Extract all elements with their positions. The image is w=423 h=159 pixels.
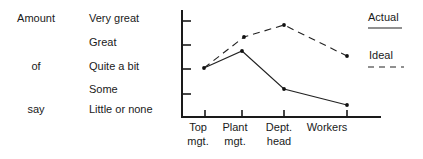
line-chart: [0, 0, 423, 159]
x-label-plant-1: Plant: [222, 121, 247, 134]
series-actual: [204, 51, 347, 105]
ideal-markers: [242, 23, 349, 58]
x-label-top-2: mgt.: [187, 135, 208, 148]
x-label-workers: Workers: [307, 121, 348, 134]
x-label-plant-2: mgt.: [224, 135, 245, 148]
series-ideal: [204, 25, 347, 68]
x-label-dept-2: head: [267, 135, 291, 148]
actual-markers: [202, 49, 349, 107]
x-label-dept-1: Dept.: [266, 121, 292, 134]
legend-actual-label: Actual: [368, 11, 399, 24]
x-label-top-1: Top: [189, 121, 207, 134]
legend-ideal-label: Ideal: [369, 49, 393, 62]
x-ticks: [205, 110, 347, 117]
y-ticks: [182, 21, 191, 94]
